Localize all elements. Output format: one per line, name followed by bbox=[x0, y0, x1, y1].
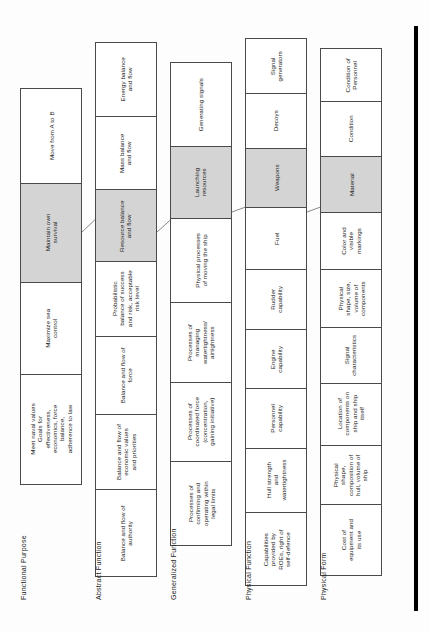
node-label: Maintain own survival bbox=[44, 203, 59, 263]
node-label: Condition of Personnel bbox=[344, 58, 359, 92]
node-physical-shape-composition-hull[interactable]: Physical shape, composition of hull, vol… bbox=[321, 446, 381, 506]
level-caption-physical-form: Physical Form bbox=[320, 552, 327, 600]
node-label: Physical processes of moving the ship bbox=[194, 233, 209, 288]
node-condition-of-personnel[interactable]: Condition of Personnel bbox=[321, 49, 381, 102]
level-caption-generalized-function: Generalized Function bbox=[170, 528, 177, 600]
level-physical-form: Cost of equipment and its use Physical s… bbox=[320, 48, 382, 576]
node-signal-generators[interactable]: Signal generators bbox=[246, 39, 306, 94]
node-physical-processes-moving-ship[interactable]: Physical processes of moving the ship bbox=[171, 219, 231, 303]
node-label: Processes of confirming and operating wi… bbox=[186, 481, 215, 526]
node-signal-characteristics[interactable]: Signal characteristics bbox=[321, 328, 381, 384]
node-color-and-visible-markings[interactable]: Color and visible markings bbox=[321, 213, 381, 270]
level-caption-abstract-function: Abstract Function bbox=[95, 541, 102, 600]
level-caption-functional-purpose: Functional Purpose bbox=[20, 535, 27, 600]
node-label: Location of components on ship and ship … bbox=[336, 392, 365, 436]
level-generalized-function: Processes of confirming and operating wi… bbox=[170, 62, 232, 546]
node-label: Balance and flow of force bbox=[119, 347, 134, 403]
node-condition[interactable]: Condition bbox=[321, 102, 381, 157]
node-launching-resources[interactable]: Launching resources bbox=[171, 147, 231, 220]
node-processes-confirming-legal-limits[interactable]: Processes of confirming and operating wi… bbox=[171, 462, 231, 545]
node-probabilistic-balance[interactable]: Probabilistic balance of success and ris… bbox=[96, 262, 156, 337]
node-label: Signal generators bbox=[269, 51, 284, 82]
node-label: Cost of equipment and its use bbox=[340, 519, 362, 561]
node-label: Capabilities provided by ROEs, right of … bbox=[261, 529, 290, 569]
node-location-of-components[interactable]: Location of components on ship and ship … bbox=[321, 384, 381, 446]
node-engine-capability[interactable]: Engine capability bbox=[246, 330, 306, 389]
node-decoys[interactable]: Decoys bbox=[246, 94, 306, 149]
node-label: Condition bbox=[347, 115, 354, 142]
node-label: Resource balance and flow bbox=[119, 200, 134, 251]
node-label: Decoys bbox=[272, 110, 279, 131]
node-cost-of-equipment[interactable]: Cost of equipment and its use bbox=[321, 505, 381, 575]
node-meet-naval-values[interactable]: Meet naval values Goals for effectivenes… bbox=[21, 375, 81, 484]
node-capabilities-roes[interactable]: Capabilities provided by ROEs, right of … bbox=[246, 513, 306, 585]
node-label: Processes of managing watertightness/ ai… bbox=[186, 321, 215, 364]
level-caption-physical-function: Physical Function bbox=[245, 541, 252, 600]
node-label: Weapons bbox=[272, 165, 279, 192]
node-mass-balance-and-flow[interactable]: Mass balance and flow bbox=[96, 117, 156, 191]
node-hull-strength-watertightness[interactable]: Hull strength and watertightness bbox=[246, 449, 306, 514]
node-label: Engine capability bbox=[269, 345, 284, 372]
node-weapons[interactable]: Weapons bbox=[246, 149, 306, 209]
node-label: Generating signals bbox=[197, 78, 204, 131]
diagram-canvas: Meet naval values Goals for effectivenes… bbox=[0, 0, 430, 633]
node-maintain-own-survival[interactable]: Maintain own survival bbox=[21, 184, 81, 284]
node-label: Personnel capability bbox=[269, 404, 284, 433]
node-label: Balance and flow of authority bbox=[119, 505, 134, 561]
node-move-from-a-to-b[interactable]: Move from A to B bbox=[21, 89, 81, 184]
node-label: Hull strength and watertightness bbox=[265, 460, 287, 501]
level-functional-purpose: Meet naval values Goals for effectivenes… bbox=[20, 88, 82, 485]
node-label: Rudder capability bbox=[269, 286, 284, 313]
node-energy-balance-and-flow[interactable]: Energy balance and flow bbox=[96, 43, 156, 117]
node-rudder-capability[interactable]: Rudder capability bbox=[246, 270, 306, 330]
node-physical-shape-size-volume-components[interactable]: Physical shape, size, volume of componen… bbox=[321, 270, 381, 328]
node-material[interactable]: Material bbox=[321, 157, 381, 214]
level-physical-function: Capabilities provided by ROEs, right of … bbox=[245, 38, 307, 586]
node-label: Launching resources bbox=[194, 168, 209, 197]
node-processes-managing-watertightness[interactable]: Processes of managing watertightness/ ai… bbox=[171, 303, 231, 383]
node-label: Probabilistic balance of success and ris… bbox=[111, 271, 140, 328]
node-personnel-capability[interactable]: Personnel capability bbox=[246, 389, 306, 449]
node-label: Material bbox=[347, 173, 354, 196]
node-balance-flow-economic-values[interactable]: Balance and flow of economic values and … bbox=[96, 415, 156, 491]
node-maximize-sea-control[interactable]: Maximize sea control bbox=[21, 283, 81, 375]
node-fuel[interactable]: Fuel bbox=[246, 208, 306, 270]
node-label: Physical shape, composition of hull, vol… bbox=[333, 454, 370, 495]
node-label: Processes of coordinated force (concentr… bbox=[186, 397, 215, 447]
node-balance-flow-force[interactable]: Balance and flow of force bbox=[96, 337, 156, 415]
node-label: Maximize sea control bbox=[44, 298, 59, 358]
node-generating-signals[interactable]: Generating signals bbox=[171, 63, 231, 147]
node-label: Energy balance and flow bbox=[119, 57, 134, 101]
node-label: Meet naval values Goals for effectivenes… bbox=[29, 399, 73, 459]
node-processes-coordinated-force[interactable]: Processes of coordinated force (concentr… bbox=[171, 383, 231, 463]
node-resource-balance-and-flow[interactable]: Resource balance and flow bbox=[96, 190, 156, 262]
node-label: Signal characteristics bbox=[344, 335, 359, 376]
node-label: Fuel bbox=[272, 233, 279, 245]
node-label: Physical shape, size, volume of componen… bbox=[336, 281, 365, 316]
node-label: Move from A to B bbox=[47, 111, 54, 160]
node-label: Mass balance and flow bbox=[119, 133, 134, 172]
node-label: Balance and flow of economic values and … bbox=[115, 424, 137, 480]
node-label: Color and visible markings bbox=[340, 227, 362, 255]
node-balance-flow-authority[interactable]: Balance and flow of authority bbox=[96, 490, 156, 576]
level-abstract-function: Balance and flow of authority Balance an… bbox=[95, 42, 157, 577]
page-edge-bar bbox=[414, 26, 418, 611]
